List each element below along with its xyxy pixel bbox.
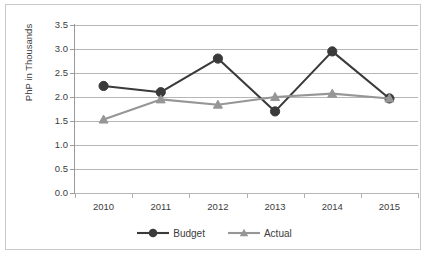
y-axis-tick-label-wrap: 1.5: [36, 116, 68, 126]
y-axis-tick-label: 1.0: [40, 140, 68, 150]
y-axis-tick-label: 0.0: [40, 188, 68, 198]
y-axis-tick-label: 1.5: [40, 116, 68, 126]
series-line-budget: [104, 51, 390, 111]
y-axis-tick-label: 0.5: [40, 164, 68, 174]
y-axis-tick-label-wrap: 2.5: [36, 68, 68, 78]
legend-marker-circle-icon: [136, 227, 170, 239]
y-axis-tick-label-wrap: 3.5: [36, 20, 68, 30]
legend-label: Budget: [173, 228, 205, 239]
y-axis-tick-label-wrap: 0.5: [36, 164, 68, 174]
x-axis-tick-label: 2015: [363, 201, 415, 212]
x-axis-tick: [132, 193, 133, 198]
x-axis-tick: [189, 193, 190, 198]
legend-item-budget[interactable]: Budget: [136, 227, 205, 239]
y-axis-title: PhP in Thousands: [23, 8, 34, 118]
x-axis-tick: [247, 193, 248, 198]
y-axis-tick-label-wrap: 2.0: [36, 92, 68, 102]
x-axis-tick-label: 2012: [192, 201, 244, 212]
y-axis-tick-label: 2.5: [40, 68, 68, 78]
y-axis-tick-label: 3.0: [40, 44, 68, 54]
data-point-budget: [270, 107, 279, 116]
x-axis-tick-label: 2011: [135, 201, 187, 212]
x-axis-tick-label: 2014: [306, 201, 358, 212]
data-point-budget: [213, 54, 222, 63]
x-axis-tick: [361, 193, 362, 198]
y-axis-tick-label: 3.5: [40, 20, 68, 30]
y-axis-tick-label-wrap: 1.0: [36, 140, 68, 150]
x-axis-tick: [75, 193, 76, 198]
x-axis-tick-label: 2013: [249, 201, 301, 212]
plot-area: [75, 25, 418, 193]
legend-marker-triangle-icon: [227, 227, 261, 239]
legend-item-actual[interactable]: Actual: [227, 227, 292, 239]
y-axis-tick-label-wrap: 3.0: [36, 44, 68, 54]
x-axis-tick: [304, 193, 305, 198]
series-line-actual: [104, 94, 390, 120]
x-axis-tick-label: 2010: [78, 201, 130, 212]
x-axis-tick: [418, 193, 419, 198]
data-point-budget: [99, 81, 108, 90]
series-layer: [75, 25, 418, 193]
y-axis-tick-label: 2.0: [40, 92, 68, 102]
chart-legend: BudgetActual: [6, 223, 422, 243]
legend-label: Actual: [264, 228, 292, 239]
data-point-budget: [328, 47, 337, 56]
y-axis-tick-label-wrap: 0.0: [36, 188, 68, 198]
chart-frame: PhP in Thousands 0.00.51.01.52.02.53.03.…: [5, 4, 421, 250]
